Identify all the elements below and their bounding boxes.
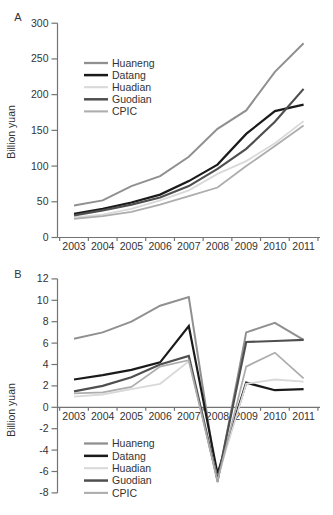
x-tick-label: 2003 bbox=[62, 410, 86, 422]
y-tick-label: 250 bbox=[31, 52, 49, 64]
x-tick-label: 2011 bbox=[292, 410, 315, 422]
legend-label-huaneng: Huaneng bbox=[112, 437, 155, 449]
x-tick-label: 2003 bbox=[62, 240, 86, 252]
legend-label-huadian: Huadian bbox=[112, 81, 151, 93]
x-tick-label: 2006 bbox=[148, 240, 172, 252]
panel-label: B bbox=[14, 268, 21, 280]
y-tick-label: -4 bbox=[39, 444, 48, 456]
x-tick-label: 2011 bbox=[292, 240, 315, 252]
y-tick-label: 2 bbox=[43, 379, 49, 391]
y-tick-label: 4 bbox=[43, 358, 49, 370]
y-tick-label: 8 bbox=[43, 315, 49, 327]
series-line-huadian bbox=[74, 121, 304, 217]
legend-label-huaneng: Huaneng bbox=[112, 57, 155, 69]
y-tick-label: 150 bbox=[31, 124, 49, 136]
figure-two-panel-line-charts: ABillion yuan050100150200250300200320042… bbox=[0, 0, 333, 515]
y-tick-label: 100 bbox=[31, 160, 49, 172]
y-tick-label: -8 bbox=[39, 486, 48, 498]
y-tick-label: 200 bbox=[31, 88, 49, 100]
chart-b: BBillion yuan-8-6-4-20246810122003200420… bbox=[0, 258, 333, 515]
x-tick-label: 2004 bbox=[91, 410, 115, 422]
x-tick-label: 2005 bbox=[120, 410, 144, 422]
x-tick-label: 2007 bbox=[177, 410, 201, 422]
y-axis-title: Billion yuan bbox=[5, 105, 17, 159]
legend-label-cpic: CPIC bbox=[112, 105, 138, 117]
x-tick-label: 2004 bbox=[91, 240, 115, 252]
series-line-cpic bbox=[74, 125, 304, 218]
y-tick-label: 0 bbox=[43, 231, 49, 243]
chart-a: ABillion yuan050100150200250300200320042… bbox=[0, 0, 333, 258]
x-tick-label: 2010 bbox=[263, 240, 287, 252]
y-tick-label: 300 bbox=[31, 17, 49, 29]
y-tick-label: 6 bbox=[43, 337, 49, 349]
panel-label: A bbox=[14, 11, 22, 23]
x-tick-label: 2010 bbox=[263, 410, 287, 422]
legend-label-datang: Datang bbox=[112, 69, 146, 81]
x-tick-label: 2009 bbox=[235, 240, 259, 252]
x-tick-label: 2006 bbox=[148, 410, 172, 422]
legend-label-cpic: CPIC bbox=[112, 487, 138, 499]
y-tick-label: 10 bbox=[37, 294, 49, 306]
legend-label-guodian: Guodian bbox=[112, 474, 152, 486]
series-line-datang bbox=[74, 326, 304, 474]
x-tick-label: 2008 bbox=[206, 410, 230, 422]
y-tick-label: 12 bbox=[37, 272, 49, 284]
x-tick-label: 2005 bbox=[120, 240, 144, 252]
y-tick-label: 50 bbox=[37, 195, 49, 207]
y-tick-label: -2 bbox=[39, 422, 48, 434]
y-tick-label: 0 bbox=[43, 401, 49, 413]
y-tick-label: -6 bbox=[39, 465, 48, 477]
y-axis-title: Billion yuan bbox=[5, 383, 17, 437]
legend-label-datang: Datang bbox=[112, 450, 146, 462]
x-tick-label: 2008 bbox=[206, 240, 230, 252]
legend-label-guodian: Guodian bbox=[112, 93, 152, 105]
legend-label-huadian: Huadian bbox=[112, 462, 151, 474]
x-tick-label: 2007 bbox=[177, 240, 201, 252]
